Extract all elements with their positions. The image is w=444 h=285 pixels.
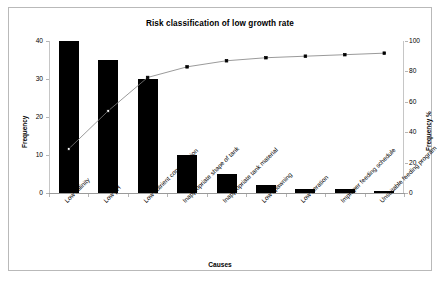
x-tick-mark — [325, 194, 326, 197]
y2-tick-label: 60 — [409, 98, 431, 105]
x-tick-mark — [286, 194, 287, 197]
chart-title: Risk classification of low growth rate — [9, 19, 431, 28]
x-tick-mark — [365, 194, 366, 197]
x-tick-mark — [207, 194, 208, 197]
y-tick-mark — [46, 155, 49, 156]
y2-tick-label: 100 — [409, 37, 431, 44]
cumulative-marker — [107, 110, 110, 113]
cumulative-marker — [344, 53, 347, 56]
x-tick-mark — [167, 194, 168, 197]
x-tick-mark — [404, 194, 405, 197]
cumulative-marker — [383, 52, 386, 55]
cumulative-marker — [265, 56, 268, 59]
y-tick-label: 40 — [23, 37, 43, 44]
y-tick-mark — [46, 79, 49, 80]
y2-tick-mark — [405, 132, 408, 133]
cumulative-marker — [304, 55, 307, 58]
y-tick-label: 0 — [23, 189, 43, 196]
y2-tick-mark — [405, 193, 408, 194]
cumulative-marker — [225, 59, 228, 62]
x-tick-mark — [49, 194, 50, 197]
cumulative-marker — [67, 148, 70, 151]
x-tick-mark — [128, 194, 129, 197]
cumulative-marker — [146, 76, 149, 79]
cumulative-marker — [186, 66, 189, 69]
y2-tick-label: 40 — [409, 128, 431, 135]
cumulative-line-series — [49, 41, 404, 193]
y-tick-mark — [46, 41, 49, 42]
y2-tick-mark — [405, 41, 408, 42]
y-tick-mark — [46, 117, 49, 118]
x-tick-mark — [246, 194, 247, 197]
y2-tick-label: 0 — [409, 189, 431, 196]
y-tick-label: 10 — [23, 151, 43, 158]
x-tick-mark — [88, 194, 89, 197]
y-tick-label: 30 — [23, 75, 43, 82]
x-axis-title: Causes — [9, 261, 431, 268]
cumulative-line — [69, 53, 385, 149]
y2-tick-mark — [405, 102, 408, 103]
y-tick-label: 20 — [23, 113, 43, 120]
y2-tick-mark — [405, 163, 408, 164]
y2-tick-mark — [405, 71, 408, 72]
y-axis-label: Frequency — [21, 116, 28, 148]
y2-tick-label: 80 — [409, 67, 431, 74]
chart-frame: Risk classification of low growth rate F… — [8, 7, 432, 271]
